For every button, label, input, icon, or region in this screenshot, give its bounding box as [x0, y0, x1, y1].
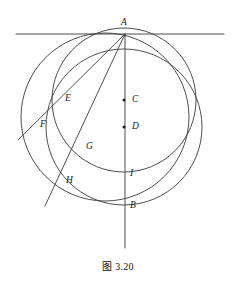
point-label-b: B [130, 201, 136, 211]
secant-line-A-E-F [18, 34, 125, 140]
circles-group [21, 28, 202, 205]
point-dot-c [123, 99, 126, 102]
point-label-d: D [132, 122, 139, 132]
geometry-diagram [0, 0, 236, 292]
figure-caption: 图 3.20 [0, 258, 236, 273]
geometry-figure-container: ACDEFGHIB 图 3.20 [0, 0, 236, 292]
point-label-c: C [132, 95, 138, 105]
point-label-i: I [130, 169, 133, 179]
point-label-a: A [121, 18, 127, 28]
point-label-f: F [40, 120, 46, 130]
point-label-e: E [65, 94, 71, 104]
point-dot-d [123, 126, 126, 129]
point-label-h: H [66, 176, 73, 186]
point-label-g: G [86, 142, 93, 152]
